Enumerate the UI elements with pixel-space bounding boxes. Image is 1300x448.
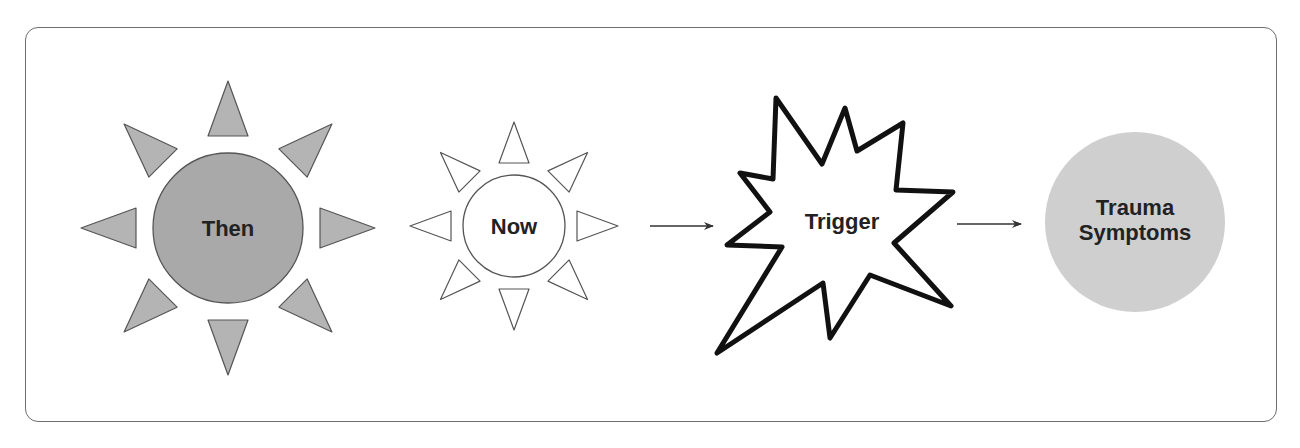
ray-icon bbox=[208, 81, 248, 136]
ray-icon bbox=[548, 142, 598, 192]
now-sun: Now bbox=[410, 122, 618, 330]
ray-icon bbox=[499, 289, 529, 330]
ray-icon bbox=[279, 279, 346, 346]
trauma-label-line2: Symptoms bbox=[1079, 220, 1191, 245]
ray-icon bbox=[430, 142, 480, 192]
ray-icon bbox=[81, 208, 136, 248]
ray-icon bbox=[110, 110, 177, 177]
trigger-label: Trigger bbox=[805, 209, 880, 234]
ray-icon bbox=[208, 320, 248, 375]
trauma-label-line1: Trauma bbox=[1096, 195, 1175, 220]
diagram-canvas: Then Now Trigger Trauma Symptoms bbox=[0, 0, 1300, 448]
now-label: Now bbox=[491, 214, 538, 239]
ray-icon bbox=[279, 110, 346, 177]
then-label: Then bbox=[202, 216, 255, 241]
ray-icon bbox=[577, 211, 618, 241]
ray-icon bbox=[548, 260, 598, 310]
ray-icon bbox=[499, 122, 529, 163]
then-sun: Then bbox=[81, 81, 375, 375]
ray-icon bbox=[430, 260, 480, 310]
trigger-starburst: Trigger bbox=[717, 98, 953, 353]
ray-icon bbox=[110, 279, 177, 346]
ray-icon bbox=[320, 208, 375, 248]
ray-icon bbox=[410, 211, 451, 241]
trauma-symptoms-node: Trauma Symptoms bbox=[1045, 132, 1225, 312]
